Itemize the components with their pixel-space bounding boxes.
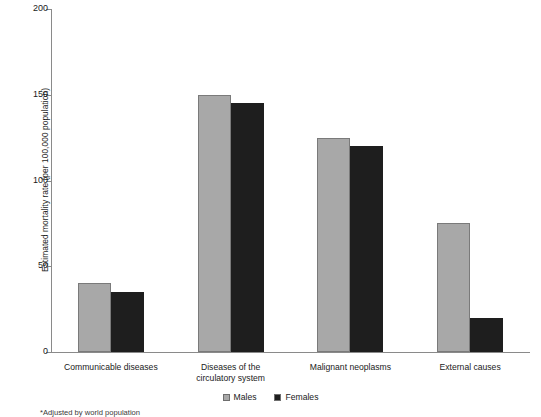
y-axis-line (51, 9, 52, 352)
y-tick-label: 150 (33, 89, 48, 100)
bar-males (317, 138, 350, 352)
category-label: Malignant neoplasms (291, 362, 411, 373)
bar-group (78, 9, 144, 352)
bar-females (470, 318, 503, 352)
category-label-line: Communicable diseases (51, 362, 171, 373)
legend-label: Males (234, 392, 257, 402)
bar-females (231, 103, 264, 352)
x-axis-line (51, 352, 530, 353)
bar-group (198, 9, 264, 352)
bar-females (111, 292, 144, 352)
bar-males (78, 283, 111, 352)
bar-females (350, 146, 383, 352)
y-tick-label: 100 (33, 175, 48, 186)
legend-label: Females (285, 392, 318, 402)
category-label-line: Diseases of the (171, 362, 291, 373)
legend-item-males: Males (223, 392, 257, 402)
bar-group (317, 9, 383, 352)
chart-figure: Estimated mortality rate (per 100,000 po… (0, 0, 541, 417)
chart-footnote: *Adjusted by world population (40, 408, 140, 417)
y-tick-label: 0 (43, 346, 48, 357)
legend-item-females: Females (274, 392, 318, 402)
bar-males (437, 223, 470, 352)
legend-swatch-icon (274, 394, 281, 401)
category-label-line: External causes (410, 362, 530, 373)
y-tick-label: 50 (38, 260, 48, 271)
legend-swatch-icon (223, 394, 230, 401)
category-label: Communicable diseases (51, 362, 171, 373)
category-label-line: Malignant neoplasms (291, 362, 411, 373)
y-tick-label: 200 (33, 3, 48, 14)
chart-legend: MalesFemales (0, 392, 541, 402)
bar-group (437, 9, 503, 352)
plot-area: 050100150200 Communicable diseasesDiseas… (51, 9, 530, 352)
category-label: External causes (410, 362, 530, 373)
category-label: Diseases of thecirculatory system (171, 362, 291, 384)
bar-males (198, 95, 231, 352)
category-label-line: circulatory system (171, 373, 291, 384)
